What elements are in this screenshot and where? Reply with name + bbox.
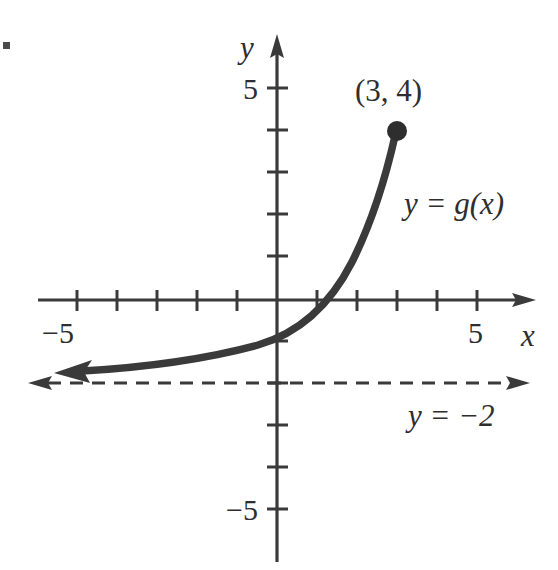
point-label: (3, 4) bbox=[355, 75, 422, 106]
asymptote-label: y = −2 bbox=[408, 400, 495, 431]
x-tick-label-minus-5: −5 bbox=[42, 318, 74, 348]
x-axis bbox=[38, 290, 536, 311]
endpoint-dot bbox=[387, 121, 407, 141]
asymptote-line bbox=[28, 376, 530, 390]
graph-figure bbox=[0, 0, 558, 570]
function-curve bbox=[54, 121, 407, 383]
y-axis bbox=[267, 34, 288, 562]
y-axis-label: y bbox=[240, 32, 254, 63]
curve-label: y = g(x) bbox=[404, 188, 504, 219]
y-tick-label-minus-5: −5 bbox=[226, 495, 258, 525]
x-tick-label-5: 5 bbox=[468, 318, 483, 348]
y-tick-label-5: 5 bbox=[243, 74, 258, 104]
x-axis-label: x bbox=[521, 320, 535, 351]
